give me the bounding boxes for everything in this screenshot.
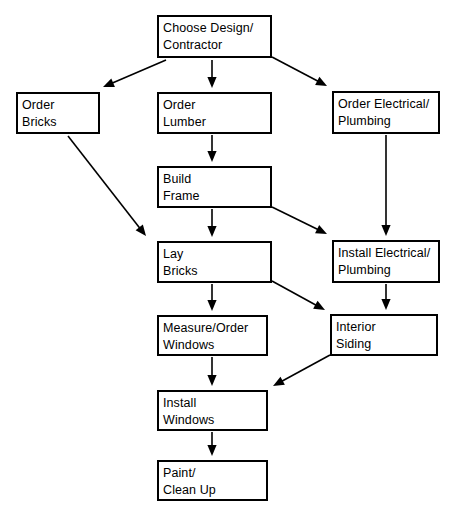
flowchart-edge-bricks-to-lay-bricks: [68, 136, 146, 236]
flowchart-node-order-bricks[interactable]: OrderBricks: [16, 92, 100, 134]
node-label-line2: Clean Up: [163, 482, 266, 499]
node-label-line2: Bricks: [22, 114, 98, 131]
flowchart-node-paint-cleanup[interactable]: Paint/Clean Up: [157, 460, 268, 501]
flowchart-edge-lumber-to-frame: [207, 135, 216, 162]
node-label-line2: Lumber: [163, 114, 270, 131]
node-label-line1: Order: [163, 97, 270, 114]
node-label-line1: Install: [163, 395, 266, 412]
edge-line: [272, 57, 319, 82]
node-label-line1: Choose Design/: [163, 20, 270, 37]
node-label-line1: Install Electrical/: [338, 245, 438, 262]
flowchart-edge-electrical-to-install: [381, 135, 390, 236]
flowchart-edge-lay-bricks-to-siding: [272, 281, 325, 310]
flowchart-edge-lay-bricks-to-measure: [207, 284, 216, 311]
flowchart-node-order-electrical[interactable]: Order Electrical/Plumbing: [332, 91, 440, 134]
node-label-line2: Contractor: [163, 37, 270, 54]
edge-arrowhead-icon: [207, 300, 216, 311]
edge-line: [281, 355, 330, 382]
flowchart-node-order-lumber[interactable]: OrderLumber: [157, 92, 272, 134]
node-label-line2: Plumbing: [338, 262, 438, 279]
node-label-line2: Frame: [163, 188, 270, 205]
node-label-line1: Order Electrical/: [338, 96, 438, 113]
node-label-line1: Measure/Order: [163, 320, 266, 337]
node-label-line1: Interior: [336, 319, 436, 336]
node-label-line2: Windows: [163, 412, 266, 429]
edge-arrowhead-icon: [207, 151, 216, 162]
edge-arrowhead-icon: [207, 226, 216, 237]
node-label-line1: Paint/: [163, 465, 266, 482]
flowchart-node-interior-siding[interactable]: InteriorSiding: [330, 314, 438, 356]
node-label-line2: Plumbing: [338, 113, 438, 130]
flowchart-edge-measure-to-install-windows: [207, 357, 216, 386]
edge-arrowhead-icon: [207, 77, 216, 88]
edge-line: [272, 207, 319, 230]
node-label-line1: Build: [163, 171, 270, 188]
flowchart-edge-windows-to-paint: [207, 432, 216, 456]
flowchart-edge-choose-to-bricks: [103, 60, 166, 87]
flowchart-edge-frame-to-install-electrical: [272, 207, 327, 234]
node-label-line2: Bricks: [163, 263, 270, 280]
flowchart-edge-frame-to-lay-bricks: [207, 209, 216, 237]
edge-arrowhead-icon: [136, 224, 146, 236]
flowchart-edge-choose-to-lumber: [207, 60, 216, 88]
edge-arrowhead-icon: [207, 445, 216, 456]
node-label-line2: Siding: [336, 336, 436, 353]
edge-line: [111, 60, 166, 83]
edge-arrowhead-icon: [381, 225, 390, 236]
node-label-line2: Windows: [163, 337, 266, 354]
flowchart-canvas: Choose Design/ContractorOrderBricksOrder…: [0, 0, 469, 520]
edge-line: [272, 281, 317, 306]
flowchart-node-choose-design[interactable]: Choose Design/Contractor: [157, 15, 272, 58]
edge-arrowhead-icon: [207, 375, 216, 386]
edge-line: [68, 136, 140, 229]
flowchart-edge-choose-to-electrical: [272, 57, 327, 86]
node-label-line1: Order: [22, 97, 98, 114]
node-label-line1: Lay: [163, 246, 270, 263]
edge-arrowhead-icon: [381, 299, 390, 310]
flowchart-node-lay-bricks[interactable]: LayBricks: [157, 241, 272, 283]
flowchart-node-build-frame[interactable]: BuildFrame: [157, 166, 272, 208]
flowchart-node-measure-windows[interactable]: Measure/OrderWindows: [157, 315, 268, 356]
flowchart-node-install-windows[interactable]: InstallWindows: [157, 390, 268, 431]
flowchart-node-install-electrical[interactable]: Install Electrical/Plumbing: [332, 240, 440, 283]
flowchart-edge-install-elec-to-siding: [381, 284, 390, 310]
flowchart-edge-siding-to-install-windows: [273, 355, 330, 386]
